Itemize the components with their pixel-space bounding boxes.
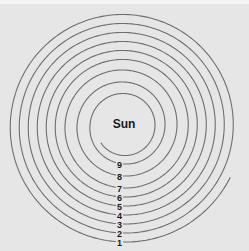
center-label-sun: Sun	[113, 117, 136, 131]
loop-label-9: 9	[117, 160, 122, 170]
loop-label-5: 5	[117, 202, 122, 212]
spiral-diagram: 123456789 Sun	[0, 0, 249, 251]
loop-label-3: 3	[117, 220, 122, 230]
loop-labels: 123456789	[116, 159, 123, 248]
spiral-canvas: 123456789 Sun	[0, 0, 249, 251]
loop-label-8: 8	[117, 172, 122, 182]
loop-label-7: 7	[117, 184, 122, 194]
loop-label-1: 1	[117, 238, 122, 248]
loop-label-2: 2	[117, 229, 122, 239]
loop-label-6: 6	[117, 193, 122, 203]
loop-label-4: 4	[117, 211, 122, 221]
